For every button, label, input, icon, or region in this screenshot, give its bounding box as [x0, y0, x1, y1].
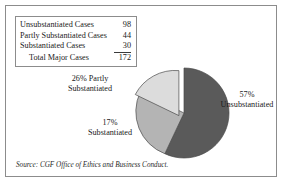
pie-label-substantiated: 17% Substantiated: [74, 118, 146, 139]
table-cell-label: Unsubstantiated Cases: [20, 20, 114, 31]
table-row: Partly Substantiated Cases 44: [20, 31, 131, 42]
pie-label-unsubstantiated: 57% Unsubstantiated: [209, 90, 285, 111]
table-cell-value: 98: [114, 20, 131, 31]
pie-label-substantiated-line2: Substantiated: [74, 128, 146, 138]
source-note: Source: CGF Office of Ethics and Busines…: [16, 161, 168, 169]
pie-label-unsubstantiated-line1: 57%: [209, 90, 285, 100]
table-cell-value: 30: [114, 41, 131, 52]
table-cell-value: 172: [114, 52, 131, 64]
table-cell-label: Partly Substantiated Cases: [20, 31, 114, 42]
pie-label-partly-line1: 26% Partly: [54, 74, 126, 84]
table-row-total: Total Major Cases 172: [20, 52, 131, 64]
table-cell-label: Total Major Cases: [20, 53, 114, 64]
table-cell-value: 44: [114, 31, 131, 42]
figure-frame: Unsubstantiated Cases 98 Partly Substant…: [5, 5, 277, 177]
pie-label-unsubstantiated-line2: Unsubstantiated: [209, 100, 285, 110]
table-row: Unsubstantiated Cases 98: [20, 20, 131, 31]
pie-chart: [133, 63, 235, 163]
pie-label-substantiated-line1: 17%: [74, 118, 146, 128]
pie-label-partly-substantiated: 26% Partly Substantiated: [54, 74, 126, 95]
table-cell-label: Substantiated Cases: [20, 41, 114, 52]
table-row: Substantiated Cases 30: [20, 41, 131, 52]
summary-table: Unsubstantiated Cases 98 Partly Substant…: [15, 16, 137, 67]
pie-label-partly-line2: Substantiated: [54, 84, 126, 94]
